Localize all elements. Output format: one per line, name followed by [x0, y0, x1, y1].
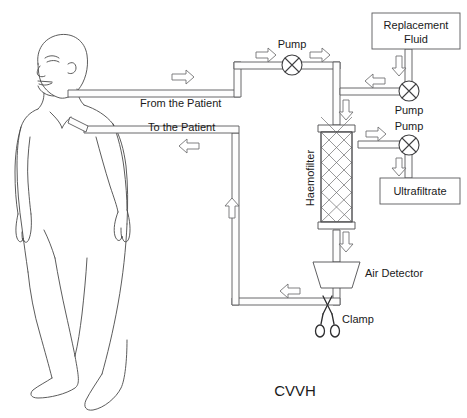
ultrafiltrate-label: Ultrafiltrate	[393, 185, 446, 197]
flow-arrow-filter-outlet-down	[339, 232, 353, 252]
flow-arrow-replacement-down	[392, 56, 406, 76]
air-detector-device: Air Detector	[313, 262, 423, 288]
from-the-patient-label: From the Patient	[140, 97, 221, 109]
to-the-patient-label: To the Patient	[148, 121, 215, 133]
patient-mouth	[38, 81, 52, 82]
haemofilter-device: Haemofilter	[304, 117, 355, 229]
clamp-ring-right	[331, 325, 340, 337]
patient-right-arm-inner	[96, 137, 118, 212]
patient-left-arm-inner	[28, 137, 31, 214]
flow-arrow-ultrafiltrate-out	[366, 127, 386, 141]
filter-outlet-tube	[333, 230, 340, 262]
patient-clavicle	[50, 112, 62, 128]
patient-hip-crease	[44, 230, 55, 258]
patient-shoulder-right	[84, 105, 113, 124]
replacement-pump-label: Pump	[395, 104, 424, 116]
patient-eye	[45, 56, 59, 58]
patient-torso-left	[17, 109, 38, 272]
clamp-ring-left	[316, 325, 325, 337]
replacement-pump: Pump	[395, 81, 424, 116]
replacement-fluid-container: Replacement Fluid	[372, 13, 460, 49]
blood-pump-label: Pump	[278, 38, 307, 50]
haemofilter-label: Haemofilter	[304, 150, 316, 207]
patient-torso-right	[113, 124, 128, 224]
haemofilter-top-cap	[318, 125, 355, 132]
patient-left-arm-outer	[15, 127, 21, 214]
flow-arrow-venous-return-left	[280, 284, 300, 298]
cvvh-diagram-canvas: Haemofilter Air Detector Clamp Replaceme…	[0, 0, 467, 418]
venous-cannula-stub	[68, 117, 88, 132]
clamp-shank-left	[332, 314, 334, 324]
ultrafiltrate-container: Ultrafiltrate	[380, 178, 460, 204]
haemofilter-body	[321, 132, 352, 222]
clamp-label: Clamp	[342, 313, 374, 325]
patient-leg-left-outer	[28, 272, 52, 378]
patient-leg-left-inner	[55, 258, 75, 356]
replacement-fluid-label-line2: Fluid	[404, 33, 428, 45]
arterial-downcomer-tube	[333, 62, 340, 125]
patient-right-arm-outer	[113, 124, 127, 210]
patient-right-finger	[121, 228, 122, 238]
patient-neck-front	[38, 93, 44, 109]
venous-riser-tube	[232, 133, 239, 305]
patient-leg-right-inner	[75, 258, 87, 356]
patient-foot-left	[31, 356, 78, 398]
air-detector-label: Air Detector	[365, 267, 423, 279]
haemofilter-bottom-cap	[318, 222, 355, 229]
flow-arrow-into-haemofilter	[339, 100, 353, 120]
flow-arrow-arterial-outflow	[172, 70, 194, 84]
ultrafiltrate-pump-label: Pump	[395, 120, 424, 132]
ultrafiltrate-pump: Pump	[395, 120, 424, 155]
air-detector-shape	[313, 262, 360, 288]
replacement-fluid-label-line1: Replacement	[384, 19, 449, 31]
arterial-horizontal-tube	[68, 90, 240, 97]
patient-ear	[68, 63, 76, 74]
patient-eyelid	[47, 61, 59, 63]
diagram-title: CVVH	[274, 382, 316, 399]
clamp-shank-right	[321, 314, 323, 324]
flow-arrow-replacement-into-line	[365, 74, 385, 88]
patient-head	[38, 34, 88, 98]
flow-arrow-pre-pump-blood	[256, 48, 276, 62]
flow-arrow-ultrafiltrate-down	[392, 158, 406, 176]
venous-return-line	[68, 117, 340, 305]
patient-lip	[39, 83, 52, 85]
patient-foot-right	[85, 340, 127, 410]
flow-arrow-venous-to-patient	[179, 139, 199, 153]
patient-leg-right-outer	[102, 224, 127, 374]
flow-arrow-post-pump-blood	[310, 48, 330, 62]
